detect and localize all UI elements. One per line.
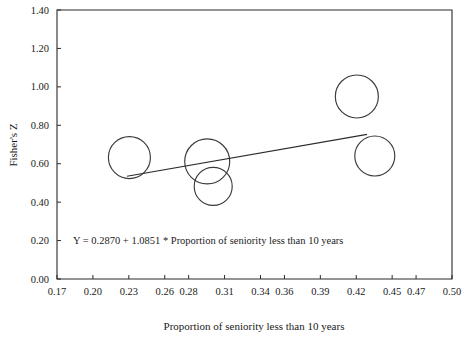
- x-tick-label: 0.36: [275, 286, 293, 297]
- x-tick-label: 0.47: [407, 286, 425, 297]
- y-tick-label: 0.00: [31, 274, 49, 285]
- x-tick-label: 0.42: [347, 286, 365, 297]
- x-tick-label: 0.23: [120, 286, 138, 297]
- y-tick-label: 1.40: [31, 5, 49, 16]
- y-tick-label: 0.20: [31, 235, 49, 246]
- x-tick-label: 0.26: [156, 286, 174, 297]
- y-tick-label: 0.60: [31, 158, 49, 169]
- regression-equation-label: Y = 0.2870 + 1.0851 * Proportion of seni…: [73, 235, 343, 246]
- x-tick-label: 0.31: [215, 286, 233, 297]
- x-tick-label: 0.45: [383, 286, 401, 297]
- x-tick-label: 0.50: [443, 286, 461, 297]
- chart-canvas: 0.170.200.230.260.280.310.340.360.390.42…: [0, 0, 466, 337]
- x-tick-label: 0.34: [251, 286, 270, 297]
- x-tick-label: 0.17: [48, 286, 66, 297]
- y-axis-title: Fisher's Z: [7, 123, 19, 167]
- x-tick-label: 0.39: [311, 286, 329, 297]
- y-tick-label: 0.40: [31, 197, 49, 208]
- x-tick-label: 0.20: [84, 286, 102, 297]
- x-tick-label: 0.28: [179, 286, 197, 297]
- scatter-plot-figure: 0.170.200.230.260.280.310.340.360.390.42…: [0, 0, 466, 337]
- y-tick-label: 0.80: [31, 120, 49, 131]
- x-axis-title: Proportion of seniority less than 10 yea…: [164, 320, 345, 332]
- y-tick-label: 1.20: [31, 43, 49, 54]
- y-tick-label: 1.00: [31, 81, 49, 92]
